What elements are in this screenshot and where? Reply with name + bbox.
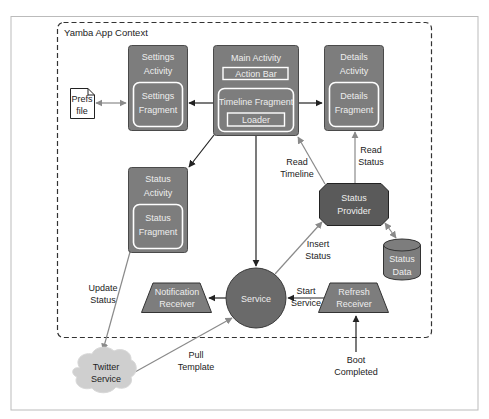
read-status-label-1: Read <box>360 145 382 155</box>
main-activity-label: Main Activity <box>231 53 282 63</box>
update-status-label-1: Update <box>88 283 117 293</box>
refresh-receiver[interactable]: Refresh Receiver <box>319 283 389 313</box>
read-status-label-2: Status <box>358 157 384 167</box>
settings-activity[interactable]: Settings Activity Settings Fragment <box>129 46 188 131</box>
prefs-file[interactable]: Prefs file <box>71 89 95 119</box>
start-service-label-1: Start <box>296 286 316 296</box>
read-timeline-label-1: Read <box>286 157 308 167</box>
provider-data-arrow <box>385 223 396 238</box>
status-fragment-label-1: Status <box>145 213 171 223</box>
main-activity[interactable]: Main Activity Action Bar Timeline Fragme… <box>214 46 299 136</box>
status-activity-label-1: Status <box>145 174 171 184</box>
twitter-service[interactable]: Twitter Service <box>73 347 137 393</box>
refresh-receiver-label-1: Refresh <box>338 287 370 297</box>
details-activity-label-1: Details <box>340 52 368 62</box>
prefs-file-label-2: file <box>76 106 88 116</box>
notification-receiver-label-1: Notification <box>155 287 200 297</box>
notification-receiver[interactable]: Notification Receiver <box>142 283 212 313</box>
details-fragment-label-2: Fragment <box>335 105 374 115</box>
read-timeline-label-2: Timeline <box>280 169 314 179</box>
settings-fragment-label-1: Settings <box>142 91 175 101</box>
status-activity-label-2: Activity <box>144 188 173 198</box>
details-activity[interactable]: Details Activity Details Fragment <box>325 46 384 131</box>
update-status-label-2: Status <box>90 295 116 305</box>
insert-status-label-1: Insert <box>307 239 330 249</box>
boot-completed-label-2: Completed <box>334 367 378 377</box>
status-data[interactable]: Status Data <box>384 239 421 280</box>
status-provider-label-2: Provider <box>337 206 371 216</box>
notification-receiver-label-2: Receiver <box>159 299 195 309</box>
settings-fragment-label-2: Fragment <box>139 105 178 115</box>
main-to-status-activity-arrow <box>189 135 214 167</box>
status-provider[interactable]: Status Provider <box>320 184 389 226</box>
loader-label: Loader <box>242 115 270 125</box>
insert-status-label-2: Status <box>305 251 331 261</box>
status-activity[interactable]: Status Activity Status Fragment <box>129 168 188 253</box>
refresh-receiver-label-2: Receiver <box>336 299 372 309</box>
action-bar-label: Action Bar <box>235 69 277 79</box>
boot-completed-label-1: Boot <box>347 355 366 365</box>
service[interactable]: Service <box>226 268 286 328</box>
yamba-architecture-diagram: Yamba App Context Settings Activity Sett… <box>0 0 489 419</box>
service-label: Service <box>241 294 271 304</box>
settings-activity-label-2: Activity <box>144 66 173 76</box>
prefs-file-label-1: Prefs <box>71 94 93 104</box>
details-fragment-label-1: Details <box>340 91 368 101</box>
twitter-service-label-2: Service <box>91 374 121 384</box>
pull-template-label-2: Template <box>178 362 215 372</box>
start-service-label-2: Service <box>291 298 321 308</box>
status-data-label-2: Data <box>392 267 411 277</box>
timeline-fragment-label: Timeline Fragment <box>219 97 294 107</box>
details-activity-label-2: Activity <box>340 66 369 76</box>
settings-activity-label-1: Settings <box>142 52 175 62</box>
status-data-label-1: Status <box>389 254 415 264</box>
pull-template-label-1: Pull <box>188 350 203 360</box>
twitter-service-label-1: Twitter <box>93 362 120 372</box>
status-fragment-label-2: Fragment <box>139 227 178 237</box>
app-context-label: Yamba App Context <box>64 27 148 38</box>
status-provider-label-1: Status <box>341 193 367 203</box>
